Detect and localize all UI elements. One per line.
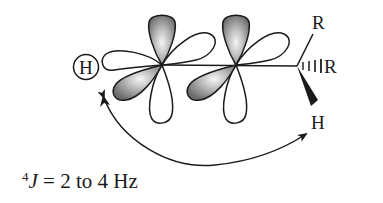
- bond-to-top-r: [297, 34, 313, 66]
- top-r-label: R: [312, 13, 325, 32]
- p-orbital-2: [187, 15, 289, 123]
- caption-value: = 2 to 4 Hz: [38, 169, 138, 193]
- arrowhead-start: [100, 95, 110, 107]
- caption-j-symbol: J: [29, 169, 38, 193]
- wedge-h-label: H: [311, 113, 325, 132]
- coupling-constant-caption: 4J = 2 to 4 Hz: [22, 171, 138, 192]
- p-orbital-1: [102, 15, 215, 123]
- caption-superscript: 4: [22, 169, 29, 184]
- hashed-bond: [303, 59, 321, 73]
- coupling-diagram: H R R H 4J = 2 to 4 Hz: [0, 0, 383, 203]
- coupling-arrow: [104, 98, 306, 166]
- hashed-r-label: R: [324, 57, 337, 76]
- carbon-chain-bond: [162, 65, 297, 66]
- circled-h-label: H: [79, 58, 93, 77]
